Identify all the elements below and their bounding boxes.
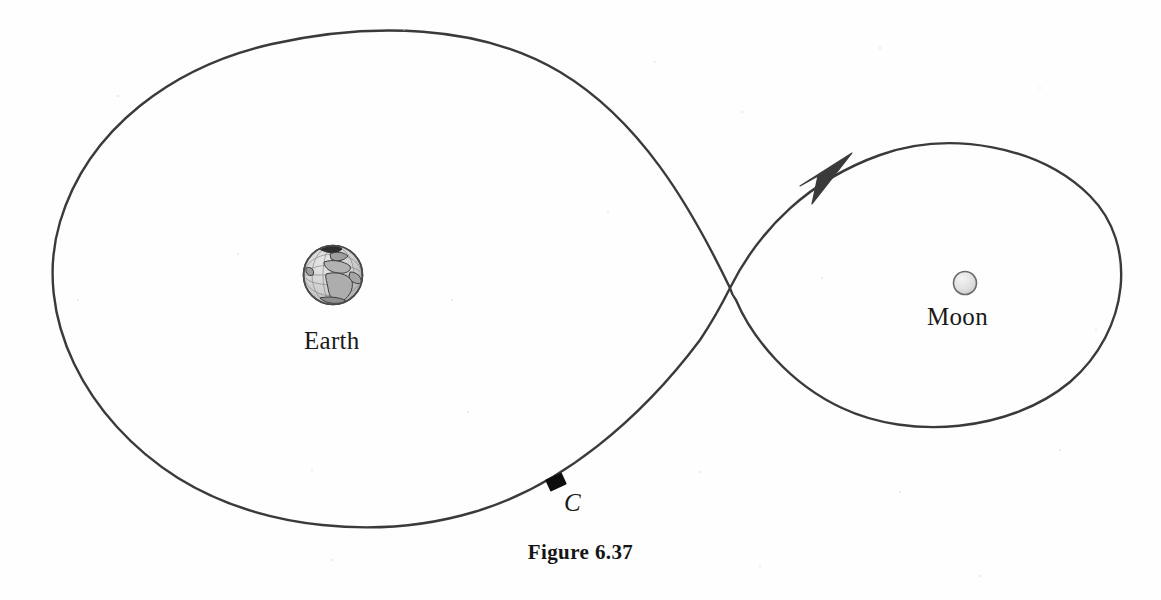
earth-label: Earth — [304, 327, 360, 355]
moon-label: Moon — [927, 303, 988, 331]
right-loop-path — [730, 143, 1121, 427]
figure-caption: Figure 6.37 — [0, 540, 1161, 565]
moon-sphere-icon — [954, 272, 977, 295]
point-c-label: C — [564, 489, 581, 517]
figure-page: Earth Moon C Figure 6.37 — [0, 0, 1161, 600]
left-loop-path — [53, 31, 730, 528]
earth-globe-icon — [304, 245, 363, 304]
direction-arrowhead — [800, 153, 852, 204]
